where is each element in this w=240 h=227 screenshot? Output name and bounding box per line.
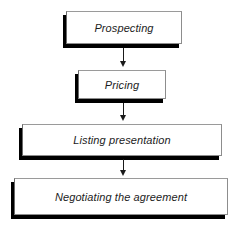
arrow-head — [120, 170, 126, 176]
down-arrow-icon — [118, 48, 129, 67]
node-box: Pricing — [78, 70, 166, 99]
arrow-head — [120, 61, 126, 67]
node-box: Listing presentation — [22, 124, 222, 156]
down-arrow-icon — [118, 103, 129, 121]
flow-node-negotiating-agreement[interactable]: Negotiating the agreement — [14, 178, 228, 215]
arrow-head — [120, 115, 126, 121]
flow-node-listing-presentation[interactable]: Listing presentation — [22, 124, 222, 156]
arrow-stem — [123, 159, 124, 170]
flowchart-canvas: Prospecting Pricing Listing presentation… — [0, 0, 240, 227]
arrow-stem — [123, 48, 124, 61]
flow-node-label: Listing presentation — [73, 134, 170, 146]
flow-node-label: Pricing — [105, 79, 139, 91]
flow-node-label: Prospecting — [94, 22, 153, 34]
flow-node-pricing[interactable]: Pricing — [78, 70, 166, 99]
node-box: Negotiating the agreement — [14, 178, 228, 215]
arrow-stem — [123, 103, 124, 115]
node-box: Prospecting — [66, 11, 182, 44]
flow-node-label: Negotiating the agreement — [55, 191, 187, 203]
down-arrow-icon — [118, 159, 129, 176]
flow-node-prospecting[interactable]: Prospecting — [66, 11, 182, 44]
